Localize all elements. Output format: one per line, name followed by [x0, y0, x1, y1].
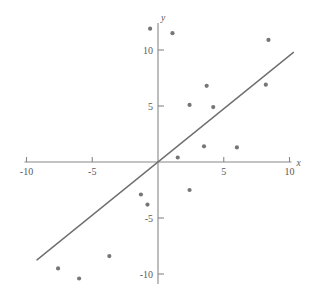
- x-tick-label: -5: [88, 166, 96, 177]
- data-point: [56, 266, 60, 270]
- data-points-group: [56, 27, 271, 281]
- x-tick-label: 10: [285, 166, 295, 177]
- y-tick-label: -5: [145, 213, 153, 224]
- trend-line: [37, 52, 293, 259]
- data-point: [205, 84, 209, 88]
- y-tick-label: 5: [148, 101, 153, 112]
- regression-line: [37, 52, 293, 259]
- data-point: [145, 202, 149, 206]
- data-point: [176, 155, 180, 159]
- y-tick-label: 10: [143, 45, 153, 56]
- x-tick-label: 5: [221, 166, 226, 177]
- plot-canvas: -10-5510 105-5-10 x y: [0, 0, 318, 293]
- y-tick-label: -10: [140, 269, 153, 280]
- scatter-plot-figure: -10-5510 105-5-10 x y: [0, 0, 318, 293]
- data-point: [187, 103, 191, 107]
- x-axis-ticks: -10-5510: [20, 157, 295, 177]
- data-point: [107, 254, 111, 258]
- y-axis-label: y: [160, 13, 166, 23]
- x-tick-label: -10: [20, 166, 33, 177]
- data-point: [148, 27, 152, 31]
- data-point: [211, 105, 215, 109]
- data-point: [139, 192, 143, 196]
- data-point: [170, 31, 174, 35]
- axes-group: [25, 23, 292, 284]
- data-point: [187, 188, 191, 192]
- x-axis-label: x: [296, 158, 302, 168]
- data-point: [235, 145, 239, 149]
- data-point: [266, 38, 270, 42]
- data-point: [77, 276, 81, 280]
- data-point: [264, 83, 268, 87]
- data-point: [202, 144, 206, 148]
